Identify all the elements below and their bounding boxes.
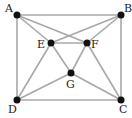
- node-f: [84, 40, 91, 47]
- node-label-g: G: [66, 78, 75, 91]
- node-e: [48, 40, 55, 47]
- node-label-c: C: [119, 103, 127, 116]
- node-label-f: F: [91, 38, 99, 51]
- node-label-e: E: [37, 38, 45, 51]
- node-label-b: B: [124, 2, 132, 15]
- edge-b-e: [51, 15, 121, 43]
- edge-e-g: [51, 43, 71, 73]
- graph-diagram: ABCDEFG: [0, 0, 132, 118]
- node-label-d: D: [8, 103, 17, 116]
- node-g: [68, 70, 75, 77]
- edge-a-e: [17, 15, 51, 43]
- node-label-a: A: [4, 2, 14, 15]
- edge-f-g: [71, 43, 87, 73]
- node-a: [14, 12, 21, 19]
- edge-a-f: [17, 15, 87, 43]
